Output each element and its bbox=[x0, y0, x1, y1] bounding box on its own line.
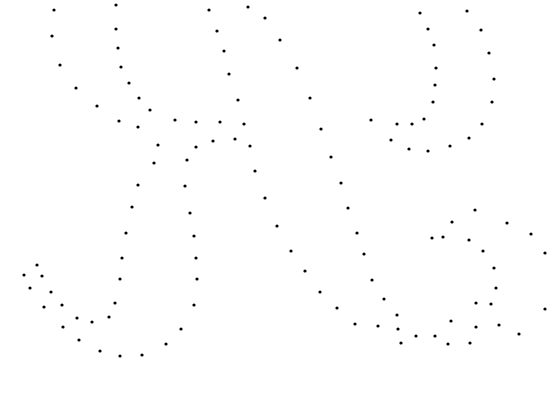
dot bbox=[52, 8, 55, 11]
dot bbox=[407, 147, 410, 150]
dot bbox=[35, 263, 38, 266]
dot bbox=[22, 273, 25, 276]
dot bbox=[119, 65, 122, 68]
dot bbox=[263, 16, 266, 19]
dot bbox=[369, 118, 372, 121]
dot bbox=[218, 120, 221, 123]
dot bbox=[207, 8, 210, 11]
dot bbox=[529, 232, 532, 235]
dot bbox=[517, 332, 520, 335]
dot bbox=[474, 301, 477, 304]
dot bbox=[60, 303, 63, 306]
dot bbox=[418, 11, 421, 14]
dot bbox=[278, 38, 281, 41]
dot bbox=[95, 104, 98, 107]
dot bbox=[446, 342, 449, 345]
dot bbox=[492, 266, 495, 269]
dot bbox=[295, 66, 298, 69]
dot bbox=[118, 354, 121, 357]
dot bbox=[114, 3, 117, 6]
dot bbox=[318, 290, 321, 293]
dot bbox=[382, 297, 385, 300]
dot bbox=[430, 236, 433, 239]
dot bbox=[303, 269, 306, 272]
dot bbox=[355, 231, 358, 234]
dot bbox=[468, 341, 471, 344]
dot-drawing-canvas bbox=[0, 0, 549, 399]
dot bbox=[263, 196, 266, 199]
dot bbox=[492, 77, 495, 80]
dot bbox=[246, 5, 249, 8]
dot bbox=[156, 143, 159, 146]
dot bbox=[473, 208, 476, 211]
dot bbox=[58, 63, 61, 66]
dot bbox=[222, 49, 225, 52]
dot bbox=[77, 338, 80, 341]
dot bbox=[90, 320, 93, 323]
dot bbox=[211, 139, 214, 142]
dot bbox=[289, 249, 292, 252]
dot bbox=[118, 277, 121, 280]
dot bbox=[339, 181, 342, 184]
dot bbox=[40, 274, 43, 277]
dot bbox=[449, 319, 452, 322]
dot bbox=[183, 184, 186, 187]
dot bbox=[414, 334, 417, 337]
dot bbox=[215, 29, 218, 32]
dot bbox=[137, 96, 140, 99]
dot bbox=[248, 144, 251, 147]
dot bbox=[441, 235, 444, 238]
dot bbox=[346, 206, 349, 209]
dot bbox=[376, 324, 379, 327]
dot bbox=[127, 81, 130, 84]
dot-pattern bbox=[0, 0, 549, 399]
dot bbox=[467, 136, 470, 139]
dot bbox=[74, 86, 77, 89]
dot bbox=[432, 43, 435, 46]
dot bbox=[49, 290, 52, 293]
dot bbox=[448, 144, 451, 147]
dot bbox=[130, 205, 133, 208]
dot bbox=[75, 316, 78, 319]
dot bbox=[431, 100, 434, 103]
dot bbox=[497, 323, 500, 326]
dot bbox=[543, 251, 546, 254]
dot bbox=[28, 286, 31, 289]
dot bbox=[335, 306, 338, 309]
dot bbox=[136, 125, 139, 128]
dot bbox=[61, 325, 64, 328]
dot bbox=[236, 98, 239, 101]
dot bbox=[319, 127, 322, 130]
dot bbox=[116, 46, 119, 49]
dot bbox=[396, 327, 399, 330]
dot bbox=[479, 28, 482, 31]
dot bbox=[505, 221, 508, 224]
dot bbox=[192, 303, 195, 306]
dot bbox=[120, 256, 123, 259]
dot bbox=[195, 277, 198, 280]
dot bbox=[194, 120, 197, 123]
dot bbox=[395, 313, 398, 316]
dot bbox=[152, 161, 155, 164]
dot bbox=[434, 66, 437, 69]
dot bbox=[42, 305, 45, 308]
dot bbox=[433, 83, 436, 86]
dot bbox=[422, 117, 425, 120]
dot bbox=[148, 108, 151, 111]
dot bbox=[140, 353, 143, 356]
dot bbox=[98, 349, 101, 352]
dot bbox=[481, 249, 484, 252]
dot bbox=[114, 27, 117, 30]
dot bbox=[474, 325, 477, 328]
dot bbox=[164, 342, 167, 345]
dot bbox=[543, 307, 546, 310]
dot bbox=[117, 119, 120, 122]
dot bbox=[113, 301, 116, 304]
dot bbox=[395, 122, 398, 125]
dot bbox=[426, 149, 429, 152]
dot bbox=[173, 118, 176, 121]
dot bbox=[242, 122, 245, 125]
dot bbox=[487, 51, 490, 54]
dot bbox=[467, 238, 470, 241]
dot bbox=[433, 334, 436, 337]
